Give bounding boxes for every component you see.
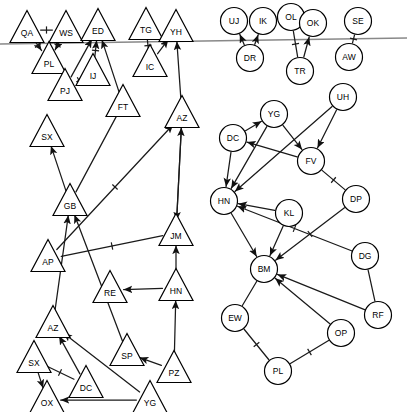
node-ic-triangle[interactable]: IC (133, 45, 167, 77)
node-uj-circle[interactable]: UJ (221, 8, 248, 35)
node-hn-circle[interactable]: HN (211, 188, 238, 215)
edge-line (231, 213, 256, 256)
node-label: PZ (169, 368, 180, 378)
edge-kl-bm (270, 226, 283, 256)
node-label: AW (342, 52, 355, 62)
edge-line (277, 274, 364, 309)
node-pz-triangle[interactable]: PZ (157, 351, 191, 383)
edge-line (368, 270, 375, 301)
node-ed-triangle[interactable]: ED (81, 9, 115, 41)
node-dc-triangle[interactable]: DC (69, 366, 103, 398)
node-dr-circle[interactable]: DR (237, 45, 264, 72)
node-tr-circle[interactable]: TR (287, 58, 314, 85)
node-yg-triangle[interactable]: YG (133, 381, 167, 412)
node-label: SX (41, 132, 53, 142)
node-label: YH (170, 27, 182, 37)
node-sx-triangle[interactable]: SX (17, 341, 51, 373)
node-label: DC (80, 383, 92, 393)
edge-line (76, 115, 117, 192)
edge-fv-dp (322, 170, 345, 189)
node-label: DR (244, 53, 256, 63)
node-label: WS (59, 28, 73, 38)
node-label: EW (228, 313, 242, 323)
node-ws-triangle[interactable]: WS (49, 11, 83, 43)
edge-dc1-yg1 (246, 121, 262, 130)
edge-line (174, 300, 175, 357)
node-kl-circle[interactable]: KL (276, 200, 303, 227)
node-yh-triangle[interactable]: YH (159, 10, 193, 42)
edge-hn1-re (124, 288, 163, 289)
edge-tick-mark (92, 50, 99, 51)
edge-sp-gb (74, 215, 122, 342)
node-label: AZ (48, 323, 59, 333)
edge-line (74, 215, 122, 342)
node-aw-circle[interactable]: AW (336, 44, 363, 71)
node-label: BM (258, 264, 271, 274)
edge-dc2-az2 (59, 336, 80, 374)
edge-ew-pl2 (244, 329, 269, 359)
node-label: PL (44, 59, 55, 69)
edge-sx2-ox (38, 372, 43, 388)
edge-dr-uj (240, 34, 244, 44)
node-pl-circle[interactable]: PL (265, 358, 292, 385)
node-op-circle[interactable]: OP (328, 320, 355, 347)
node-ox-triangle[interactable]: OX (30, 381, 64, 412)
node-az-triangle[interactable]: AZ (36, 306, 70, 338)
edge-yg1-fv (283, 125, 302, 149)
node-label: GB (64, 201, 77, 211)
node-qa-triangle[interactable]: QA (10, 11, 44, 43)
node-label: OP (335, 328, 348, 338)
node-label: YG (144, 398, 156, 408)
node-hn-triangle[interactable]: HN (159, 269, 193, 301)
node-label: FV (306, 156, 317, 166)
edge-ew-bm (242, 281, 256, 305)
edge-ap-jm (61, 236, 162, 257)
edge-pl2-op (290, 340, 328, 363)
edge-hn2-bm (231, 213, 256, 256)
node-sp-triangle[interactable]: SP (110, 334, 144, 366)
edge-dc1-hn2 (226, 152, 231, 186)
node-label: SE (352, 16, 364, 26)
node-dp-circle[interactable]: DP (343, 186, 370, 213)
node-label: AZ (177, 113, 188, 123)
node-dg-circle[interactable]: DG (352, 243, 379, 270)
edge-ap-az1 (57, 124, 173, 249)
edge-line (51, 146, 66, 191)
edge-rf-dg (368, 270, 375, 301)
edge-line (242, 281, 256, 305)
node-label: UJ (229, 16, 239, 26)
node-rf-circle[interactable]: RF (365, 302, 392, 329)
edge-tick-mark (292, 43, 299, 44)
node-label: SX (28, 358, 40, 368)
edge-line (177, 127, 182, 220)
node-label: RE (104, 288, 116, 298)
node-label: PJ (60, 86, 70, 96)
node-gb-triangle[interactable]: GB (53, 184, 87, 216)
node-sx-triangle[interactable]: SX (30, 115, 64, 147)
edge-ol-tr (292, 31, 299, 56)
node-label: ED (92, 26, 104, 36)
node-label: HN (170, 286, 182, 296)
node-uh-circle[interactable]: UH (330, 84, 357, 111)
node-ik-circle[interactable]: IK (250, 8, 277, 35)
node-fv-circle[interactable]: FV (298, 148, 325, 175)
edge-line (255, 35, 258, 45)
node-bm-circle[interactable]: BM (251, 256, 278, 283)
edge-rf-bm (277, 274, 364, 309)
node-dc-circle[interactable]: DC (220, 125, 247, 152)
node-ew-circle[interactable]: EW (222, 305, 249, 332)
node-ok-circle[interactable]: OK (300, 10, 327, 37)
edge-tick-mark (111, 242, 112, 249)
node-yg-circle[interactable]: YG (261, 101, 288, 128)
node-jm-triangle[interactable]: JM (159, 214, 193, 246)
node-ap-triangle[interactable]: AP (31, 240, 65, 272)
edge-line (283, 125, 302, 149)
node-tg-triangle[interactable]: TG (129, 8, 163, 40)
node-az-triangle[interactable]: AZ (165, 96, 199, 128)
edge-line (240, 34, 244, 44)
node-ft-triangle[interactable]: FT (106, 85, 140, 117)
node-label: UH (337, 92, 349, 102)
node-se-circle[interactable]: SE (345, 8, 372, 35)
graph-svg: QAWSEDTGYHPLICIJPJFTAZSXGBJMAPREHNAZSPSX… (0, 0, 407, 412)
edge-line (226, 152, 231, 186)
